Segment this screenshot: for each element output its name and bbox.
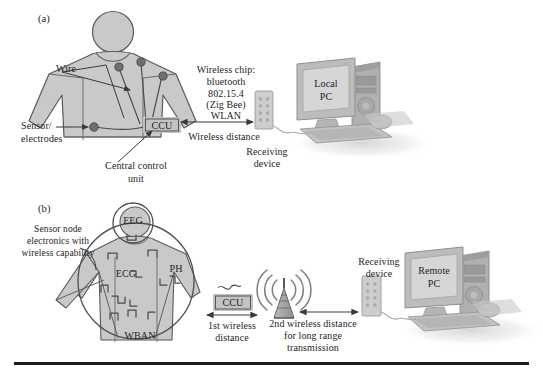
label-receiving-device-a-line2: device bbox=[254, 158, 281, 169]
label-wireless-chip-line5: WLAN bbox=[211, 110, 241, 121]
label-sensor-node-line2: electronics with bbox=[27, 236, 89, 247]
label-eeg: EEG bbox=[123, 215, 143, 226]
label-wireless-chip-line3: 802.15.4 bbox=[208, 88, 244, 99]
remote-pc-b bbox=[397, 247, 542, 346]
label-wireless-chip-line2: bluetooth bbox=[207, 76, 246, 87]
panel-a-label: (a) bbox=[38, 13, 50, 25]
radio-tower-b bbox=[257, 270, 311, 318]
label-second-distance-line2: for long range bbox=[284, 330, 342, 341]
ccu-box-label-a: CCU bbox=[152, 120, 173, 131]
label-first-distance-line1: 1st wireless bbox=[208, 320, 256, 331]
label-sensor-electrodes-line1: Sensor/ bbox=[21, 120, 52, 131]
label-wireless-chip-line1: Wireless chip: bbox=[197, 64, 255, 75]
label-sensor-node-line1: Sensor node bbox=[34, 224, 82, 235]
label-wireless-distance-a: Wireless distance bbox=[188, 131, 260, 142]
label-wireless-chip-line4: (Zig Bee) bbox=[206, 99, 246, 110]
label-ecg: ECG bbox=[116, 268, 136, 279]
local-pc-label-line2: PC bbox=[320, 91, 332, 102]
remote-pc-label-line1: Remote bbox=[418, 265, 450, 276]
label-wire: Wire bbox=[56, 63, 76, 74]
figure-container: (a) Wire Sensor/ electrodes Central cont… bbox=[0, 0, 543, 375]
label-central-control-line2: unit bbox=[128, 173, 144, 184]
receiving-device-a bbox=[255, 91, 288, 133]
ccu-box-label-b: CCU bbox=[223, 297, 244, 308]
label-ph: PH bbox=[170, 263, 183, 274]
label-sensor-node-line3: wireless capability bbox=[22, 248, 95, 259]
label-first-distance-line2: distance bbox=[215, 332, 249, 343]
receiving-device-b bbox=[362, 276, 397, 319]
label-second-distance-line3: transmission bbox=[287, 342, 339, 353]
label-second-distance-line1: 2nd wireless distance bbox=[269, 318, 357, 329]
local-pc-label-line1: Local bbox=[314, 78, 337, 89]
bottom-horizontal-rule bbox=[14, 362, 529, 365]
label-sensor-electrodes-line2: electrodes bbox=[21, 133, 63, 144]
local-pc-a bbox=[288, 58, 434, 159]
remote-pc-label-line2: PC bbox=[428, 278, 440, 289]
label-receiving-device-b-line1: Receiving bbox=[358, 256, 399, 267]
label-receiving-device-a-line1: Receiving bbox=[246, 146, 287, 157]
label-wban: WBAN bbox=[125, 330, 156, 341]
label-central-control-line1: Central control bbox=[105, 160, 167, 171]
panel-b-label: (b) bbox=[38, 203, 51, 215]
label-receiving-device-b-line2: device bbox=[366, 268, 393, 279]
